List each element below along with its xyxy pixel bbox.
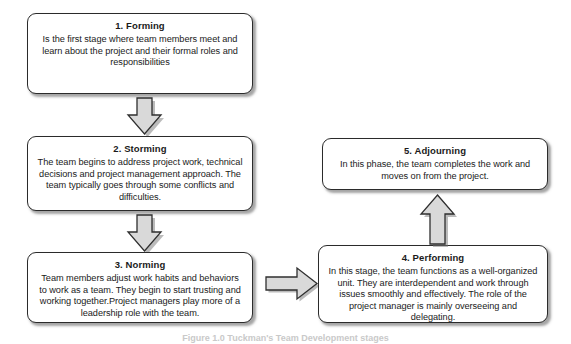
arrow-performing-to-adjourning: [415, 192, 459, 248]
stage-box-forming[interactable]: 1. Forming Is the first stage where team…: [27, 13, 253, 94]
stage-box-norming[interactable]: 3. Norming Team members adjust work habi…: [27, 252, 253, 323]
stage-body-storming: The team begins to address project work,…: [37, 157, 243, 203]
stage-body-adjourning: In this phase, the team completes the wo…: [332, 159, 538, 182]
stage-box-performing[interactable]: 4. Performing In this stage, the team fu…: [318, 245, 548, 323]
stage-body-norming: Team members adjust work habits and beha…: [37, 273, 243, 319]
stage-body-performing: In this stage, the team functions as a w…: [328, 266, 538, 324]
stage-body-forming: Is the first stage where team members me…: [37, 34, 243, 69]
figure-caption: Figure 1.0 Tuckman's Team Development st…: [0, 333, 571, 344]
arrow-storming-to-norming: [122, 212, 166, 254]
arrow-norming-to-performing: [264, 266, 322, 306]
stage-title-storming: 2. Storming: [37, 142, 243, 155]
stage-box-adjourning[interactable]: 5. Adjourning In this phase, the team co…: [322, 138, 548, 190]
stage-title-adjourning: 5. Adjourning: [332, 144, 538, 157]
arrow-forming-to-storming: [122, 95, 166, 137]
stage-title-forming: 1. Forming: [37, 19, 243, 32]
stage-title-performing: 4. Performing: [328, 251, 538, 264]
diagram-canvas: 1. Forming Is the first stage where team…: [0, 0, 571, 344]
stage-title-norming: 3. Norming: [37, 258, 243, 271]
stage-box-storming[interactable]: 2. Storming The team begins to address p…: [27, 136, 253, 211]
